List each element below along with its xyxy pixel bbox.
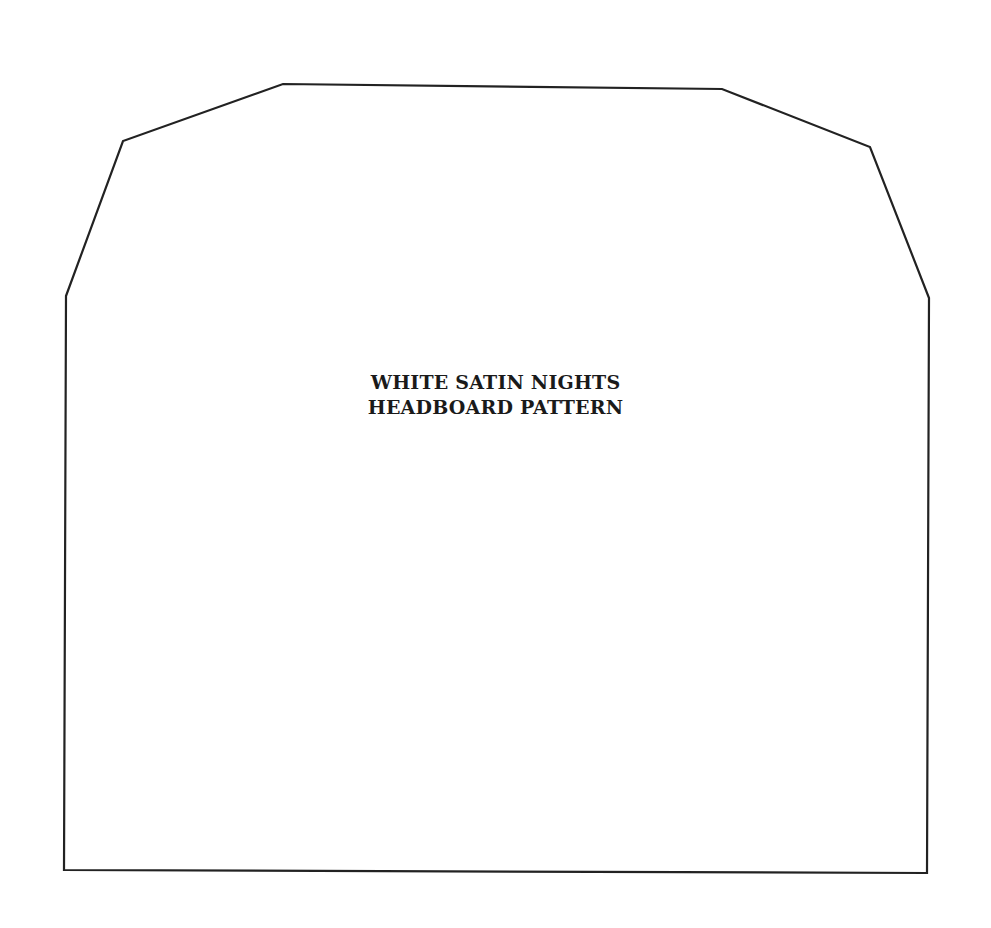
pattern-title-line-2: HEADBOARD PATTERN [0,395,991,419]
pattern-title-line-1: WHITE SATIN NIGHTS [0,370,991,394]
headboard-pattern-canvas [0,0,991,928]
headboard-outline [64,84,929,873]
